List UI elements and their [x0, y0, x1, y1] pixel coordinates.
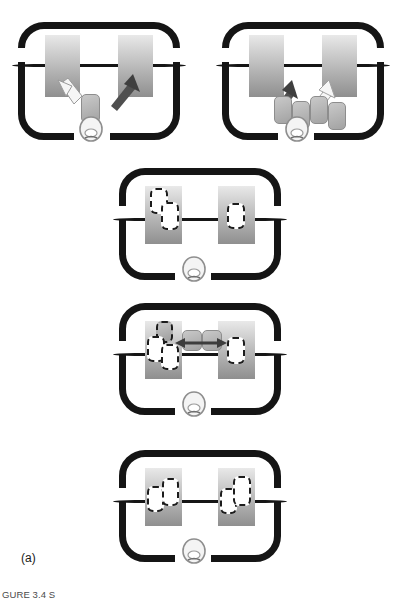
panel-middle-lower	[119, 303, 281, 415]
head-glyph	[179, 256, 209, 282]
subfigure-label: (a)	[21, 551, 36, 565]
cortical-block-right	[218, 186, 255, 244]
item-chip-4	[328, 102, 346, 130]
dashed-placeholder-1	[227, 203, 245, 229]
cortical-block-left	[145, 468, 182, 526]
midline	[113, 500, 287, 503]
arrow-to-left-block	[58, 78, 82, 104]
panel-top-left	[18, 22, 180, 140]
panel-top-right	[222, 22, 384, 140]
panel-middle-upper	[119, 168, 281, 280]
item-chip-3	[310, 96, 328, 124]
dashed-placeholder-2	[233, 476, 251, 506]
cortical-block-left	[145, 186, 182, 244]
head-glyph	[76, 116, 106, 142]
head-glyph	[179, 538, 209, 564]
head-glyph	[282, 116, 312, 142]
panel-bottom	[119, 450, 281, 562]
arrow-to-right-block	[111, 74, 140, 111]
dashed-placeholder-2	[162, 478, 179, 506]
figure-caption: GURE 3.4 S	[2, 589, 262, 600]
cortical-block-right	[218, 468, 255, 526]
dashed-placeholder-2	[161, 202, 179, 230]
figure-container: (a) GURE 3.4 S	[0, 0, 393, 600]
head-glyph	[179, 391, 209, 417]
midline	[113, 218, 287, 221]
